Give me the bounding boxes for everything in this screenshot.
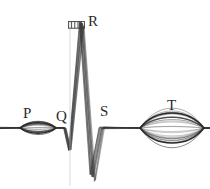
ecg-trace (0, 22, 210, 175)
ecg-trace (140, 127, 204, 129)
ecg-trace (0, 23, 210, 177)
ecg-trace (0, 22, 210, 175)
ecg-figure: P Q R S T (0, 0, 210, 189)
wave-label-q: Q (56, 109, 67, 124)
waveform-traces (0, 21, 210, 181)
time-scale-marker (68, 15, 85, 23)
ecg-trace (0, 23, 210, 177)
ecg-trace (0, 23, 210, 176)
ecg-trace (0, 23, 210, 177)
ecg-trace (0, 21, 210, 173)
wave-label-p: P (23, 106, 31, 121)
wave-label-s: S (100, 104, 108, 119)
wave-label-t: T (167, 98, 176, 113)
ecg-trace (0, 22, 210, 174)
wave-label-r: R (88, 14, 98, 29)
ecg-waveform-canvas (0, 0, 210, 189)
